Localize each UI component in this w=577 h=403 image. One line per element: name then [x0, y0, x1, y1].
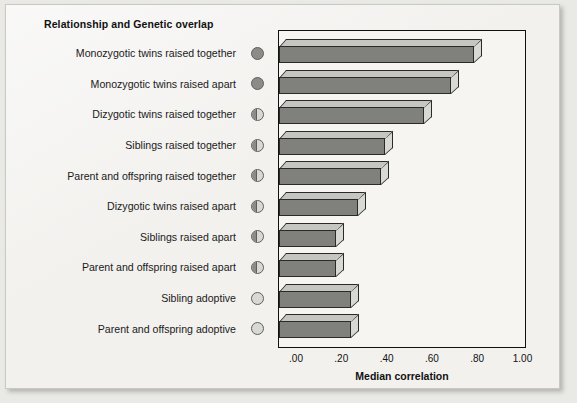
category-label-column: Monozygotic twins raised togetherMonozyg…: [16, 38, 244, 344]
genetic-overlap-empty-circle-icon: [251, 292, 264, 305]
genetic-overlap-symbol-row: [244, 313, 270, 344]
category-label: Monozygotic twins raised together: [76, 47, 244, 59]
bar: [279, 161, 381, 178]
genetic-overlap-symbol-row: [244, 191, 270, 222]
x-tick-label: .40: [380, 353, 394, 364]
category-label: Monozygotic twins raised apart: [91, 78, 244, 90]
category-row: Dizygotic twins raised together: [16, 99, 244, 130]
genetic-overlap-symbol-row: [244, 160, 270, 191]
category-label: Siblings raised together: [125, 139, 244, 151]
category-row: Parent and offspring raised together: [16, 160, 244, 191]
x-axis-title: Median correlation: [278, 370, 526, 382]
category-label: Parent and offspring adoptive: [98, 323, 244, 335]
bar: [279, 192, 358, 209]
bar: [279, 100, 424, 117]
genetic-overlap-half-circle-icon: [251, 108, 264, 121]
genetic-overlap-symbol-column: [244, 38, 270, 344]
genetic-overlap-symbol-row: [244, 38, 270, 69]
category-row: Parent and offspring adoptive: [16, 313, 244, 344]
x-axis-tick-labels: .00.20.40.60.801.00: [278, 353, 526, 367]
bar-front-face: [279, 291, 351, 308]
category-label: Dizygotic twins raised together: [92, 108, 244, 120]
bar-front-face: [279, 321, 351, 338]
category-row: Siblings raised together: [16, 130, 244, 161]
bar: [279, 284, 351, 301]
bar: [279, 223, 336, 240]
x-tick-label: .20: [334, 353, 348, 364]
bar-front-face: [279, 107, 424, 124]
category-label: Dizygotic twins raised apart: [107, 200, 244, 212]
bar: [279, 253, 336, 270]
genetic-overlap-symbol-row: [244, 69, 270, 100]
x-tick-label: 1.00: [513, 353, 532, 364]
genetic-overlap-full-circle-icon: [251, 77, 264, 90]
bar-front-face: [279, 77, 451, 94]
bar: [279, 39, 474, 56]
x-tick-label: .60: [425, 353, 439, 364]
category-row: Dizygotic twins raised apart: [16, 191, 244, 222]
category-label: Sibling adoptive: [161, 292, 244, 304]
chart-title: Relationship and Genetic overlap: [44, 18, 214, 30]
genetic-overlap-half-circle-icon: [251, 169, 264, 182]
genetic-overlap-symbol-row: [244, 283, 270, 314]
bar: [279, 314, 351, 331]
screenshot-canvas: Relationship and Genetic overlap Monozyg…: [0, 0, 577, 403]
genetic-overlap-full-circle-icon: [251, 47, 264, 60]
category-row: Monozygotic twins raised together: [16, 38, 244, 69]
category-label: Siblings raised apart: [140, 231, 244, 243]
genetic-overlap-half-circle-icon: [251, 200, 264, 213]
bar-front-face: [279, 168, 381, 185]
genetic-overlap-symbol-row: [244, 252, 270, 283]
bars-layer: [279, 31, 525, 347]
category-label: Parent and offspring raised together: [67, 170, 244, 182]
category-label: Parent and offspring raised apart: [82, 261, 244, 273]
bar-front-face: [279, 46, 474, 63]
genetic-overlap-symbol-row: [244, 222, 270, 253]
category-row: Parent and offspring raised apart: [16, 252, 244, 283]
scanned-page: Relationship and Genetic overlap Monozyg…: [5, 4, 560, 389]
x-tick-label: .00: [289, 353, 303, 364]
genetic-overlap-half-circle-icon: [251, 261, 264, 274]
bar: [279, 131, 385, 148]
genetic-overlap-half-circle-icon: [251, 139, 264, 152]
bar-front-face: [279, 230, 336, 247]
genetic-overlap-symbol-row: [244, 130, 270, 161]
bar-front-face: [279, 260, 336, 277]
category-row: Sibling adoptive: [16, 283, 244, 314]
bar-front-face: [279, 138, 385, 155]
genetic-overlap-symbol-row: [244, 99, 270, 130]
plot-area: [278, 30, 526, 348]
genetic-overlap-half-circle-icon: [251, 230, 264, 243]
bar: [279, 70, 451, 87]
category-row: Monozygotic twins raised apart: [16, 69, 244, 100]
bar-front-face: [279, 199, 358, 216]
genetic-overlap-empty-circle-icon: [251, 322, 264, 335]
category-row: Siblings raised apart: [16, 222, 244, 253]
x-tick-label: .80: [470, 353, 484, 364]
